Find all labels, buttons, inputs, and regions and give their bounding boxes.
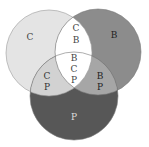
label-cbp-p: P <box>71 75 77 85</box>
label-c-only: C <box>27 32 34 42</box>
label-bp-b: B <box>97 71 104 81</box>
label-p-only: P <box>71 112 77 122</box>
label-cbp-c: C <box>71 64 78 74</box>
label-cbp-b: B <box>71 53 78 63</box>
label-cp-c: C <box>44 71 51 81</box>
label-b-only: B <box>111 30 118 40</box>
label-cb-b: B <box>73 35 80 45</box>
label-bp-p: P <box>97 82 103 92</box>
label-cb-c: C <box>73 23 80 33</box>
venn-diagram: C B P C B B C P C P B P <box>0 0 149 147</box>
label-cp-p: P <box>44 82 50 92</box>
